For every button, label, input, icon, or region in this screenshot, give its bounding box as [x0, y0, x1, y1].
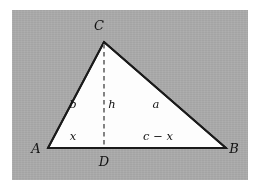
side-label-b: b — [69, 97, 76, 111]
vertex-label-d: D — [98, 154, 110, 169]
vertex-label-b: B — [228, 141, 239, 156]
figure-root: C A B D b h a x c − x — [0, 0, 260, 191]
side-label-h: h — [108, 97, 115, 111]
side-label-a: a — [153, 97, 160, 111]
side-label-x: x — [70, 129, 77, 143]
side-label-c-minus-x: c − x — [143, 129, 173, 143]
vertex-label-c: C — [94, 18, 104, 33]
vertex-label-a: A — [30, 141, 40, 156]
triangle-diagram: C A B D b h a x c − x — [0, 0, 260, 191]
